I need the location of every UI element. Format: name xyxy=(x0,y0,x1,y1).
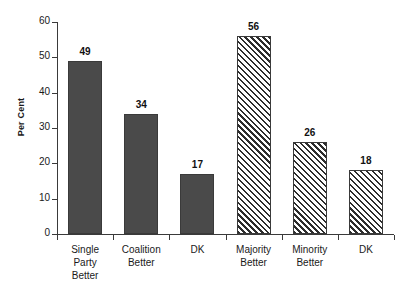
bar xyxy=(237,36,271,234)
bar-value-label: 18 xyxy=(346,155,386,166)
x-axis-tick xyxy=(282,235,283,240)
x-axis-tick xyxy=(338,235,339,240)
category-label-line: Better xyxy=(278,256,342,269)
category-label-line: Better xyxy=(53,269,117,282)
category-label-line: Better xyxy=(222,256,286,269)
x-axis-tick xyxy=(169,235,170,240)
bar xyxy=(68,61,102,234)
x-axis-tick xyxy=(226,235,227,240)
y-axis-tick xyxy=(52,93,58,94)
bar-chart: Per Cent 0102030405060 493417562618 Sing… xyxy=(0,0,414,301)
y-axis-tick xyxy=(52,199,58,200)
x-axis-tick xyxy=(113,235,114,240)
bar-value-label: 17 xyxy=(177,159,217,170)
bar xyxy=(124,114,158,234)
category-label-line: Minority xyxy=(278,243,342,256)
x-axis-category-label: DK xyxy=(165,243,229,256)
bar-value-label: 26 xyxy=(290,127,330,138)
x-axis-category-label: SinglePartyBetter xyxy=(53,243,117,282)
x-axis-category-label: CoalitionBetter xyxy=(109,243,173,269)
x-axis-tick xyxy=(57,235,58,240)
x-axis-category-label: MinorityBetter xyxy=(278,243,342,269)
category-label-line: Party xyxy=(53,256,117,269)
y-axis-tick-label: 40 xyxy=(8,86,50,97)
y-axis-tick-label: 60 xyxy=(8,15,50,26)
bar-value-label: 49 xyxy=(65,46,105,57)
x-axis-category-label: MajorityBetter xyxy=(222,243,286,269)
bar xyxy=(349,170,383,234)
bar xyxy=(180,174,214,234)
category-label-line: DK xyxy=(165,243,229,256)
x-axis-tick xyxy=(394,235,395,240)
y-axis-tick-label: 30 xyxy=(8,121,50,132)
category-label-line: DK xyxy=(334,243,398,256)
category-label-line: Single xyxy=(53,243,117,256)
y-axis-tick xyxy=(52,57,58,58)
y-axis-tick-label: 50 xyxy=(8,50,50,61)
category-label-line: Better xyxy=(109,256,173,269)
y-axis-tick-label: 10 xyxy=(8,192,50,203)
bar-value-label: 34 xyxy=(121,99,161,110)
y-axis-tick xyxy=(52,22,58,23)
y-axis-tick xyxy=(52,163,58,164)
category-label-line: Coalition xyxy=(109,243,173,256)
bar-value-label: 56 xyxy=(234,21,274,32)
y-axis-tick-label: 0 xyxy=(8,227,50,238)
category-label-line: Majority xyxy=(222,243,286,256)
y-axis-tick xyxy=(52,128,58,129)
bar xyxy=(293,142,327,234)
y-axis-tick-label: 20 xyxy=(8,156,50,167)
x-axis-category-label: DK xyxy=(334,243,398,256)
